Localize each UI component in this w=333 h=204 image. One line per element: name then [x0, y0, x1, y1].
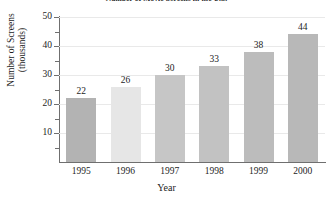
- y-axis-tick-label: 20: [28, 99, 52, 108]
- gridline: [59, 104, 325, 105]
- bar: [111, 87, 141, 162]
- bar-value-label: 30: [150, 63, 190, 73]
- y-axis-minor-tick: [55, 32, 59, 33]
- y-axis-tick-label: 10: [28, 128, 52, 137]
- bar-value-label: 22: [61, 86, 101, 96]
- y-axis-minor-tick: [55, 61, 59, 62]
- x-axis-tick-label: 1999: [236, 166, 282, 177]
- x-axis-tick-label: 1995: [58, 166, 104, 177]
- gridline: [59, 46, 325, 47]
- bar: [244, 52, 274, 162]
- y-axis-title-line2: (thousands): [17, 13, 28, 86]
- x-axis-tick-label: 1997: [147, 166, 193, 177]
- y-axis-tick: [54, 133, 59, 134]
- x-axis-tick-label: 1996: [103, 166, 149, 177]
- bar-value-label: 38: [239, 40, 279, 50]
- x-axis-tick-label: 2000: [280, 166, 326, 177]
- bar: [66, 98, 96, 162]
- gridline: [59, 133, 325, 134]
- y-axis-minor-tick: [55, 119, 59, 120]
- gridline: [59, 75, 325, 76]
- x-axis-title: Year: [0, 182, 333, 193]
- y-axis-tick-label: 40: [28, 41, 52, 50]
- bar-chart-figure: Number of Movie Screens in the U.S. Numb…: [0, 0, 333, 204]
- bar-value-label: 33: [194, 54, 234, 64]
- y-axis-title-line1: Number of Screens: [6, 13, 17, 86]
- y-axis-tick-label: 30: [28, 70, 52, 79]
- bar: [199, 66, 229, 162]
- bar: [155, 75, 185, 162]
- bar-value-label: 26: [106, 75, 146, 85]
- y-axis-tick: [54, 17, 59, 18]
- y-axis-minor-tick: [55, 90, 59, 91]
- chart-title: Number of Movie Screens in the U.S.: [0, 0, 333, 3]
- bar: [288, 34, 318, 162]
- y-axis-tick: [54, 104, 59, 105]
- y-axis-tick: [54, 46, 59, 47]
- x-axis-tick-label: 1998: [191, 166, 237, 177]
- bar-value-label: 44: [283, 22, 323, 32]
- y-axis-minor-tick: [55, 148, 59, 149]
- y-axis-tick-label: 50: [28, 12, 52, 21]
- x-axis-line: [59, 162, 326, 163]
- y-axis-title: Number of Screens (thousands): [5, 0, 29, 115]
- y-axis-tick: [54, 75, 59, 76]
- gridline: [59, 17, 325, 18]
